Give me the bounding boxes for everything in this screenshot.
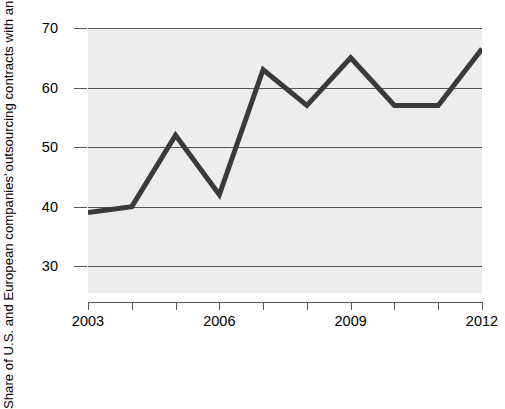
x-axis-tick-label: 2012 (466, 313, 498, 329)
x-axis-tick-mark (307, 302, 308, 310)
data-line-svg (88, 28, 482, 293)
x-axis-line (88, 302, 482, 303)
x-axis-tick-label: 2009 (335, 313, 367, 329)
y-axis-tick-label: 40 (18, 199, 58, 215)
x-axis-tick-mark (263, 302, 264, 310)
x-axis-tick-mark (176, 302, 177, 310)
y-axis-tick-mark (74, 207, 87, 208)
y-axis-tick-label: 30 (18, 258, 58, 274)
x-axis-tick-mark (132, 302, 133, 310)
y-axis-tick-mark (74, 266, 87, 267)
y-axis-tick-mark (74, 88, 87, 89)
y-axis-title-line-2: outsourcing contracts with an offshore e… (0, 0, 17, 171)
data-series-line (88, 49, 482, 213)
y-axis-tick-label: 60 (18, 80, 58, 96)
y-axis-tick-label: 70 (18, 20, 58, 36)
x-axis-tick-label: 2003 (72, 313, 104, 329)
x-axis-tick-mark (394, 302, 395, 310)
x-axis-tick-mark (219, 302, 220, 310)
y-axis-tick-label: 50 (18, 139, 58, 155)
plot-area (88, 28, 482, 293)
y-axis-tick-mark (74, 147, 87, 148)
x-axis-tick-label: 2006 (203, 313, 235, 329)
y-axis-title-line-1: Share of U.S. and European companies' (0, 171, 17, 409)
x-axis-tick-mark (88, 302, 89, 310)
x-axis-tick-mark (482, 302, 483, 310)
y-axis-tick-mark (74, 28, 87, 29)
x-axis-tick-mark (438, 302, 439, 310)
x-axis-tick-mark (351, 302, 352, 310)
